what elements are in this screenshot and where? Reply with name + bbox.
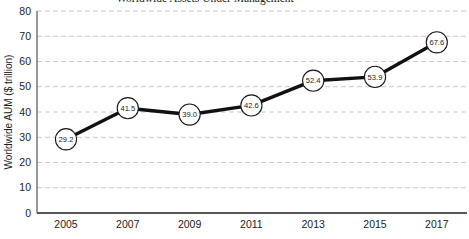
x-tick-label: 2017 [425,218,449,230]
x-tick-label: 2009 [178,218,202,230]
y-tick-label: 20 [19,156,31,168]
x-tick-label: 2007 [116,218,140,230]
y-tick-label: 80 [19,5,31,17]
y-tick-label: 50 [19,80,31,92]
y-tick-label: 30 [19,131,31,143]
data-point-label: 41.5 [120,104,135,113]
x-tick-label: 2005 [54,218,78,230]
x-tick-label: 2015 [363,218,387,230]
data-point-label: 39.0 [182,110,197,119]
data-point-label: 53.9 [368,73,383,82]
chart-canvas: Worldwide Assets Under Management Worldw… [0,0,469,239]
data-point-label: 42.6 [244,101,259,110]
line-chart-plot: 0102030405060708020052007200920112013201… [0,0,469,239]
y-tick-label: 60 [19,55,31,67]
y-tick-label: 10 [19,181,31,193]
data-point-label: 52.4 [306,76,321,85]
x-tick-label: 2011 [240,218,263,230]
data-point-label: 29.2 [59,135,74,144]
x-tick-label: 2013 [302,218,326,230]
y-tick-label: 0 [25,207,31,219]
y-tick-label: 70 [19,30,31,42]
data-line [66,42,437,139]
y-tick-label: 40 [19,106,31,118]
data-point-label: 67.6 [429,38,444,47]
